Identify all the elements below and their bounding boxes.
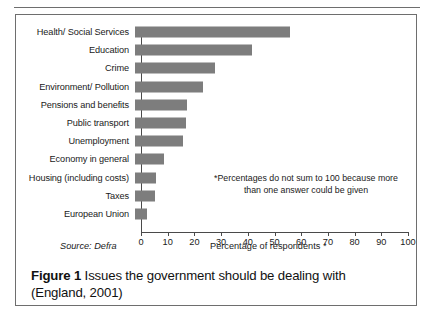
bar-category-label: Crime [20,63,135,73]
source-label: Source: Defra [60,241,117,251]
bar [135,136,183,147]
bar-track [135,41,414,59]
bar-category-label: Public transport [20,118,135,128]
bar-track [135,96,414,114]
bar [135,208,147,219]
axis-tick [194,232,195,236]
bar-category-label: Environment/ Pollution [20,82,135,92]
bar-row: Environment/ Pollution [20,78,414,96]
bar-row: Economy in general [20,150,414,168]
bar-category-label: European Union [20,209,135,219]
bar-row: European Union [20,205,414,223]
axis-tick [221,232,222,236]
axis-tick [248,232,249,236]
bar [135,190,155,201]
bar-category-label: Housing (including costs) [20,173,135,183]
axis-tick [168,232,169,236]
axis-tick [328,232,329,236]
bar-row: Pensions and benefits [20,96,414,114]
bar [135,27,290,38]
bar-category-label: Unemployment [20,136,135,146]
figure-caption-label: Figure 1 [31,268,81,283]
axis-tick [301,232,302,236]
bar-row: Unemployment [20,132,414,150]
top-divider-rule [14,7,420,8]
bar-track [135,114,414,132]
bar [135,45,252,56]
bar [135,118,186,129]
chart-footnote: *Percentages do not sum to 100 because m… [208,173,404,196]
bar-row: Health/ Social Services [20,23,414,41]
bar [135,81,203,92]
bar-category-label: Health/ Social Services [20,27,135,37]
bar-chart-plot: Health/ Social ServicesEducationCrimeEnv… [20,23,414,249]
axis-tick [408,232,409,236]
bar [135,63,215,74]
bar [135,99,187,110]
source-and-axis-title-row: Source: Defra Percentage of respondents … [20,241,414,255]
axis-tick [141,232,142,236]
bar [135,172,156,183]
bar-category-label: Economy in general [20,154,135,164]
axis-tick [275,232,276,236]
bar-category-label: Education [20,45,135,55]
bar-track [135,150,414,168]
bar-row: Education [20,41,414,59]
figure-caption: Figure 1 Issues the government should be… [31,267,403,301]
figure-container: Health/ Social ServicesEducationCrimeEnv… [15,14,417,306]
x-axis-title: Percentage of respondents * [210,241,326,251]
bar-row: Public transport [20,114,414,132]
bar-track [135,205,414,223]
bar-category-label: Pensions and benefits [20,100,135,110]
bar-row: Crime [20,59,414,77]
bar-track [135,23,414,41]
bar [135,154,164,165]
chart-area: Health/ Social ServicesEducationCrimeEnv… [16,15,418,257]
axis-tick [381,232,382,236]
bar-track [135,132,414,150]
bar-category-label: Taxes [20,191,135,201]
bar-track [135,59,414,77]
axis-tick [355,232,356,236]
bar-track [135,78,414,96]
